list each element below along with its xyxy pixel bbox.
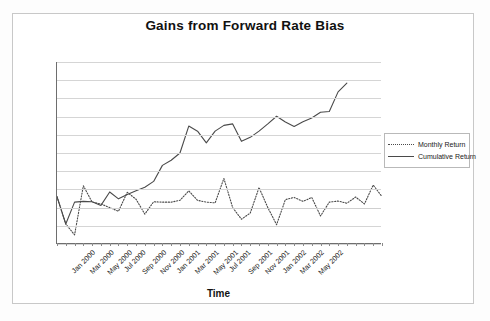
- x-axis-tick: [321, 243, 322, 246]
- x-axis-tick: [250, 243, 251, 246]
- x-axis-tick: [110, 243, 111, 246]
- x-axis-tick: [154, 243, 155, 246]
- gridline: [57, 153, 381, 154]
- x-axis-tick: [373, 243, 374, 246]
- x-axis-tick: [329, 243, 330, 246]
- x-axis-tick: [92, 243, 93, 246]
- x-axis-tick: [189, 243, 190, 246]
- x-axis-tick: [101, 243, 102, 246]
- gridline: [57, 226, 381, 227]
- x-axis-tick: [233, 243, 234, 246]
- x-axis-tick: [171, 243, 172, 246]
- x-axis-tick: [198, 243, 199, 246]
- gridline: [57, 98, 381, 99]
- x-axis-tick: [382, 243, 383, 246]
- gridline: [57, 189, 381, 190]
- x-axis-tick: [118, 243, 119, 246]
- legend-item-cumulative-return: Cumulative Return: [388, 151, 466, 162]
- x-axis-tick: [364, 243, 365, 246]
- x-axis-tick: [83, 243, 84, 246]
- gridline: [57, 62, 381, 63]
- x-axis-tick: [268, 243, 269, 246]
- x-axis-tick: [294, 243, 295, 246]
- x-axis-tick: [127, 243, 128, 246]
- legend-swatch-dotted-icon: [388, 144, 414, 145]
- legend-label-cumulative-return: Cumulative Return: [418, 153, 476, 160]
- plot-wrapper: [56, 62, 381, 244]
- x-axis-tick: [285, 243, 286, 246]
- gridline: [57, 208, 381, 209]
- x-axis-tick: [241, 243, 242, 246]
- gridline: [57, 171, 381, 172]
- x-axis-tick: [312, 243, 313, 246]
- chart-title: Gains from Forward Rate Bias: [0, 18, 490, 33]
- x-axis-tick: [145, 243, 146, 246]
- x-axis-tick: [162, 243, 163, 246]
- x-axis-tick: [136, 243, 137, 246]
- x-axis-title: Time: [56, 288, 381, 299]
- x-axis-tick: [66, 243, 67, 246]
- x-axis-tick: [356, 243, 357, 246]
- gridlines: [57, 62, 381, 243]
- x-axis-tick: [347, 243, 348, 246]
- gridline: [57, 80, 381, 81]
- legend-label-monthly-return: Monthly Return: [418, 141, 465, 148]
- chart-legend: Monthly Return Cumulative Return: [384, 133, 470, 168]
- plot-area: [56, 62, 381, 244]
- legend-swatch-solid-icon: [388, 156, 414, 157]
- x-axis-tick: [224, 243, 225, 246]
- legend-item-monthly-return: Monthly Return: [388, 139, 466, 150]
- x-axis-tick: [75, 243, 76, 246]
- x-axis-tick: [206, 243, 207, 246]
- x-axis-tick: [338, 243, 339, 246]
- x-axis-tick: [57, 243, 58, 246]
- x-axis-tick: [215, 243, 216, 246]
- gridline: [57, 135, 381, 136]
- chart-page: Gains from Forward Rate Bias 40%35%30%25…: [0, 0, 490, 321]
- x-axis-tick: [277, 243, 278, 246]
- x-axis-tick: [259, 243, 260, 246]
- x-axis-ticks: [57, 243, 381, 247]
- x-axis-tick: [180, 243, 181, 246]
- gridline: [57, 117, 381, 118]
- x-axis-tick: [303, 243, 304, 246]
